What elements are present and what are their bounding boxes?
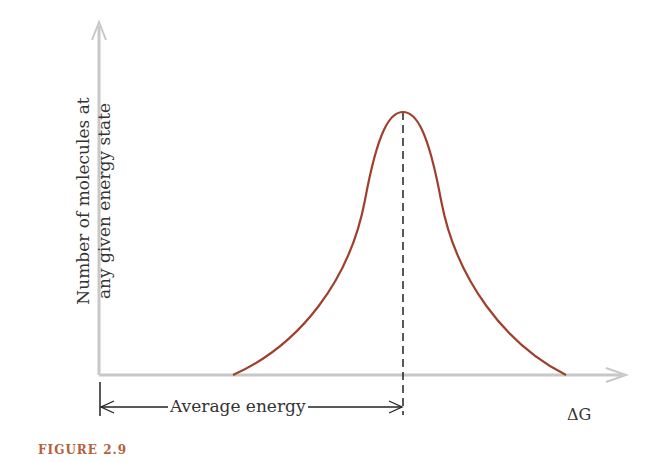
y-axis-label-line1: Number of molecules at — [73, 61, 94, 341]
y-axis-label: Number of molecules at any given energy … — [73, 61, 115, 341]
average-energy-label: Average energy — [168, 396, 308, 416]
y-axis-label-line2: any given energy state — [94, 61, 115, 341]
x-axis-label: ΔG — [567, 405, 591, 424]
distribution-curve — [233, 112, 566, 375]
figure-caption: FIGURE 2.9 — [38, 443, 127, 457]
